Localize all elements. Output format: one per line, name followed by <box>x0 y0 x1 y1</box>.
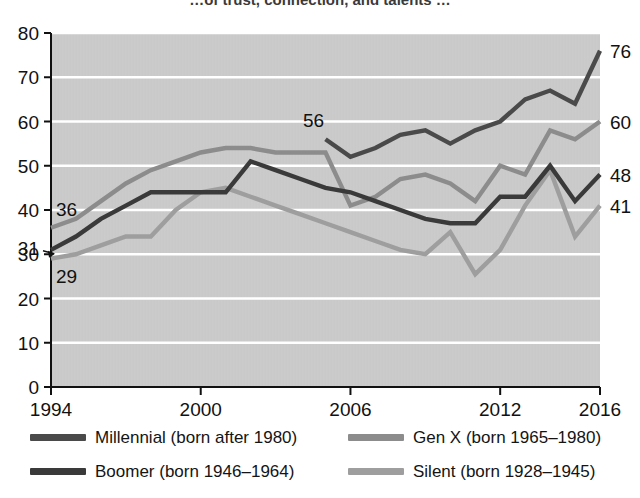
legend-label-boomer: Boomer (born 1946–1964) <box>95 463 294 480</box>
x-tick-label-2006: 2006 <box>329 399 371 420</box>
legend-item-millennial[interactable]: Millennial (born after 1980) <box>30 420 297 454</box>
legend-column-right: Gen X (born 1965–1980) Silent (born 1928… <box>348 420 601 488</box>
legend-item-genx[interactable]: Gen X (born 1965–1980) <box>348 420 601 454</box>
y-tick-label-60: 60 <box>18 112 39 133</box>
data-label-millennial-56: 56 <box>303 110 324 131</box>
y-tick-label-50: 50 <box>18 156 39 177</box>
legend-swatch-millennial <box>30 434 86 441</box>
data-label-silent-41: 41 <box>610 196 631 217</box>
legend-item-boomer[interactable]: Boomer (born 1946–1964) <box>30 454 297 488</box>
x-tick-label-2012: 2012 <box>479 399 521 420</box>
y-tick-label-0: 0 <box>28 377 39 398</box>
legend-label-millennial: Millennial (born after 1980) <box>95 429 297 446</box>
legend-item-silent[interactable]: Silent (born 1928–1945) <box>348 454 601 488</box>
y-tick-label-20: 20 <box>18 289 39 310</box>
data-label-genx-60: 60 <box>610 112 631 133</box>
x-tick-label-1994: 1994 <box>30 399 73 420</box>
data-label-genx-36: 36 <box>56 199 77 220</box>
data-label-silent-29: 29 <box>56 266 77 287</box>
data-label-millennial-76: 76 <box>610 41 631 62</box>
legend-swatch-silent <box>348 468 404 475</box>
x-tick-label-2016: 2016 <box>579 399 621 420</box>
legend-label-silent: Silent (born 1928–1945) <box>413 463 595 480</box>
y-tick-label-70: 70 <box>18 67 39 88</box>
y-tick-label-10: 10 <box>18 333 39 354</box>
legend-label-genx: Gen X (born 1965–1980) <box>413 429 601 446</box>
chart-figure: …of trust, connection, and talents … 010… <box>0 0 640 498</box>
y-tick-label-80: 80 <box>18 23 39 44</box>
legend-swatch-boomer <box>30 468 86 475</box>
data-label-boomer-48: 48 <box>610 165 631 186</box>
legend-column-left: Millennial (born after 1980) Boomer (bor… <box>30 420 297 488</box>
y-tick-label-40: 40 <box>18 200 39 221</box>
data-label-boomer-31: 31 <box>18 238 39 259</box>
legend-swatch-genx <box>348 434 404 441</box>
x-tick-label-2000: 2000 <box>180 399 222 420</box>
chart-legend: Millennial (born after 1980) Boomer (bor… <box>0 420 640 498</box>
